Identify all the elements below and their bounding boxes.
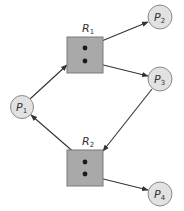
instance-dot [83,172,88,177]
instance-dot [83,160,88,165]
resource-r2: R2 [67,135,103,186]
resource-allocation-graph: R1 R2 P1 P2 P3 P4 [0,0,184,211]
resource-r1: R1 [67,22,103,73]
instance-dot [83,59,88,64]
process-p2: P2 [148,5,172,29]
resource-label-r1: R1 [82,22,94,36]
process-p3: P3 [148,67,172,91]
process-p1: P1 [11,96,34,119]
process-p4: P4 [148,182,172,206]
instance-dot [83,46,88,51]
edge-p3-to-r2 [103,89,152,151]
resource-label-r2: R2 [82,135,94,149]
edge-p1-to-r1 [30,65,67,99]
